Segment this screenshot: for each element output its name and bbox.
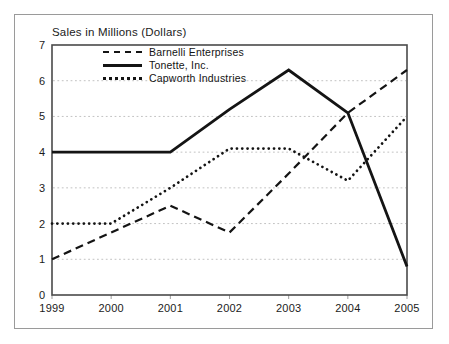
legend-item-barnelli: Barnelli Enterprises xyxy=(103,46,246,58)
y-tick-label: 2 xyxy=(39,218,45,230)
chart-legend: Barnelli Enterprises Tonette, Inc. Capwo… xyxy=(103,46,246,84)
legend-label: Capworth Industries xyxy=(149,72,246,84)
y-tick-label: 1 xyxy=(39,253,45,265)
y-tick-label: 4 xyxy=(39,146,45,158)
x-tick-label: 2000 xyxy=(99,302,124,314)
chart-image: Sales in Millions (Dollars) 012345671999… xyxy=(0,0,449,344)
dotted-line-sample-icon xyxy=(103,77,142,80)
x-tick-label: 2005 xyxy=(394,302,419,314)
solid-line-sample-icon xyxy=(103,64,142,67)
y-tick-label: 0 xyxy=(39,289,45,301)
x-tick-label: 2002 xyxy=(217,302,242,314)
legend-label: Barnelli Enterprises xyxy=(149,46,244,58)
x-tick-label: 2001 xyxy=(158,302,183,314)
legend-item-capworth: Capworth Industries xyxy=(103,72,246,84)
y-tick-label: 7 xyxy=(39,39,45,51)
x-tick-label: 2003 xyxy=(276,302,301,314)
x-tick-label: 2004 xyxy=(335,302,360,314)
y-tick-label: 3 xyxy=(39,182,45,194)
dashed-line-sample-icon xyxy=(103,51,142,53)
legend-item-tonette: Tonette, Inc. xyxy=(103,59,246,71)
series-line-dashed xyxy=(52,70,407,259)
series-line-solid xyxy=(52,70,407,266)
y-tick-label: 6 xyxy=(39,75,45,87)
legend-label: Tonette, Inc. xyxy=(149,59,209,71)
y-tick-label: 5 xyxy=(39,110,45,122)
series-line-dotted xyxy=(52,116,407,223)
x-tick-label: 1999 xyxy=(39,302,64,314)
